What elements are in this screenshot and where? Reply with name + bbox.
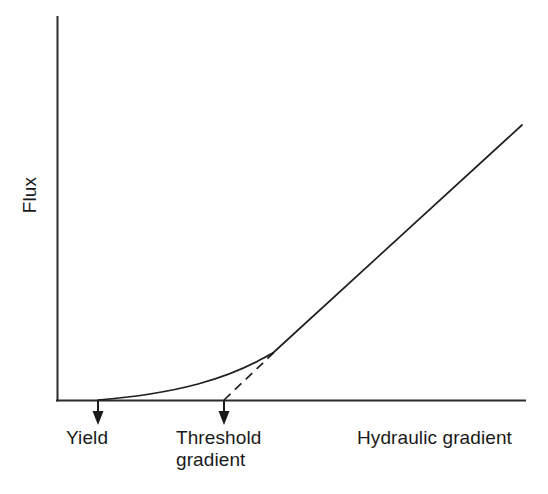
yield-arrow-icon [93, 401, 104, 425]
flux-response-curve [98, 125, 522, 400]
threshold-gradient-arrow-icon [219, 401, 230, 425]
figure-root: Flux Yield Thresholdgradient Hydraulic g… [0, 0, 548, 494]
threshold-label-line-1: Threshold [176, 427, 261, 448]
annotation-label-threshold-gradient: Thresholdgradient [176, 427, 261, 471]
annotation-label-yield: Yield [66, 427, 108, 449]
flux-vs-hydraulic-gradient-chart [0, 0, 548, 494]
x-axis-label: Hydraulic gradient [357, 427, 512, 449]
threshold-label-line-2: gradient [176, 449, 245, 470]
threshold-extrapolation-line [224, 352, 275, 401]
y-axis-label: Flux [19, 159, 41, 231]
